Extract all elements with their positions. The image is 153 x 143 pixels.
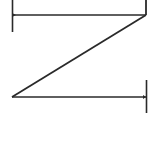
z-glyph-icon bbox=[0, 0, 153, 143]
diagonal-stroke bbox=[12, 15, 146, 97]
